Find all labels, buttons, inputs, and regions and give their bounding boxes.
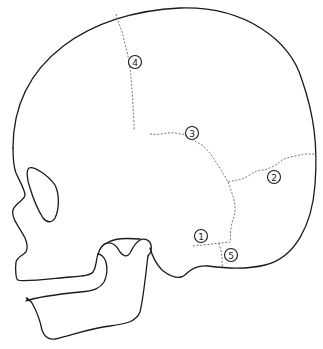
skull-diagram: 1 2 3 4 5 <box>0 0 323 349</box>
squamosal-suture <box>150 133 228 182</box>
mandible-outline <box>26 254 148 339</box>
marker-2-label: 2 <box>271 173 277 183</box>
marker-5: 5 <box>225 249 238 262</box>
coronoid-arch <box>107 238 140 243</box>
marker-1: 1 <box>195 230 208 243</box>
marker-5-label: 5 <box>228 251 234 261</box>
coronal-suture <box>116 14 134 130</box>
marker-4-label: 4 <box>132 58 138 68</box>
mastoid-suture <box>219 243 223 268</box>
marker-4: 4 <box>129 56 142 69</box>
marker-3-label: 3 <box>189 129 195 139</box>
marker-3: 3 <box>186 127 199 140</box>
marker-2: 2 <box>268 171 281 184</box>
orbit-outline <box>27 168 58 222</box>
cranium-outline <box>13 8 316 278</box>
face-profile <box>13 148 98 281</box>
zygomatic-arch <box>98 239 151 256</box>
marker-1-label: 1 <box>198 232 204 242</box>
parietomastoid-suture <box>228 182 235 242</box>
